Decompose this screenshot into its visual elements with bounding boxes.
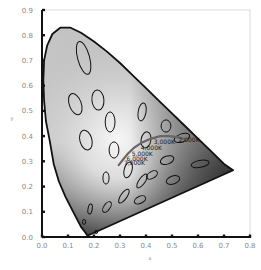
y-tick-label: 0.3	[22, 158, 33, 166]
y-tick-mark	[42, 59, 45, 61]
x-tick-mark	[93, 235, 95, 238]
y-tick-label: 0.6	[22, 82, 34, 90]
x-tick-mark	[119, 235, 121, 238]
x-tick-label: 0.2	[88, 242, 99, 250]
x-tick-mark	[197, 235, 199, 238]
x-tick-label: 0.3	[114, 242, 125, 250]
y-tick-label: 0.8	[22, 32, 33, 40]
y-tick-mark	[42, 34, 45, 36]
chromaticity-chart: 2,000K3,000K4,000K5,000K6,000K7,000K 0.0…	[0, 0, 261, 270]
y-axis-label: y	[11, 115, 14, 122]
x-tick-mark	[249, 235, 251, 238]
x-axis-label: x	[149, 255, 152, 261]
y-tick-label: 0.4	[22, 133, 34, 141]
y-tick-mark	[42, 185, 45, 187]
x-tick-label: 0.7	[218, 242, 229, 250]
y-tick-label: 0.1	[22, 208, 33, 216]
y-tick-mark	[42, 9, 45, 11]
y-tick-mark	[42, 160, 45, 162]
x-tick-mark	[223, 235, 225, 238]
y-tick-label: 0.7	[22, 57, 33, 65]
x-tick-label: 0.6	[192, 242, 204, 250]
y-tick-mark	[42, 236, 45, 238]
x-tick-mark	[145, 235, 147, 238]
y-tick-mark	[42, 211, 45, 213]
cct-label: 7,000K	[124, 159, 146, 166]
x-tick-mark	[171, 235, 173, 238]
y-tick-mark	[42, 85, 45, 87]
x-tick-label: 0.1	[62, 242, 73, 250]
y-tick-label: 0.2	[22, 183, 33, 191]
y-tick-label: 0.9	[22, 7, 33, 15]
y-tick-mark	[42, 110, 45, 112]
x-tick-mark	[67, 235, 69, 238]
x-tick-label: 0.5	[166, 242, 177, 250]
y-tick-mark	[42, 135, 45, 137]
x-tick-label: 0.8	[244, 242, 255, 250]
y-tick-label: 0.5	[22, 107, 33, 115]
y-tick-label: 0.0	[22, 234, 33, 242]
x-tick-label: 0.4	[140, 242, 152, 250]
x-tick-label: 0.0	[36, 242, 47, 250]
